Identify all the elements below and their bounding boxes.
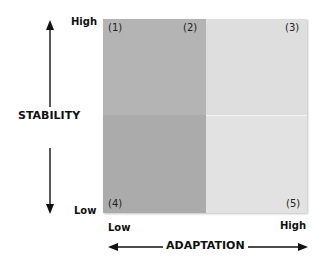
quadrant-top-right <box>206 19 307 115</box>
quadrant-label-5: (5) <box>286 198 300 209</box>
y-axis-low-label: Low <box>74 205 96 216</box>
x-axis-low-label: Low <box>108 222 130 233</box>
quadrant-label-2: (2) <box>183 22 197 33</box>
y-axis-title: STABILITY <box>18 109 80 122</box>
y-axis-high-label: High <box>71 16 97 27</box>
quadrant-grid: (1) (2) (3) (4) (5) <box>103 19 307 213</box>
x-axis-high-label: High <box>280 220 306 231</box>
quadrant-label-1: (1) <box>108 22 122 33</box>
quadrant-label-4: (4) <box>108 198 122 209</box>
quadrant-label-3: (3) <box>285 22 299 33</box>
quadrant-top-left <box>103 19 206 115</box>
x-axis-title: ADAPTATION <box>165 239 246 252</box>
